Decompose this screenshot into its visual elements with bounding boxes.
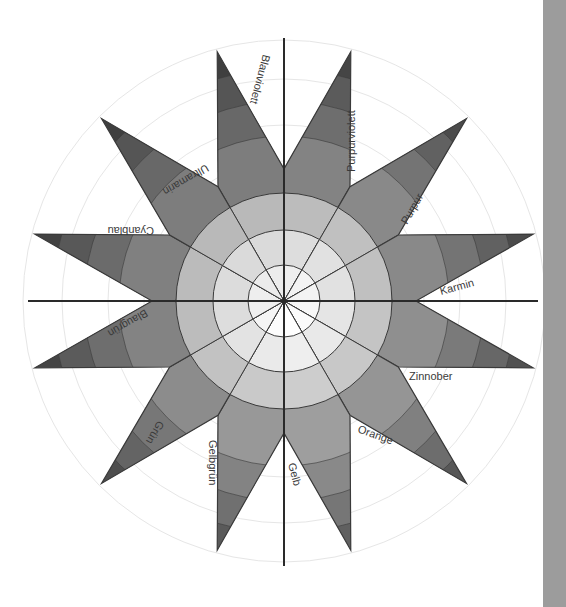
color-star-svg: BlauviolettPurpurviolettPurpurKarminZinn… bbox=[0, 0, 566, 607]
color-star-diagram: BlauviolettPurpurviolettPurpurKarminZinn… bbox=[0, 0, 566, 607]
label-purpurviolett: Purpurviolett bbox=[345, 110, 357, 172]
axes bbox=[28, 38, 538, 566]
label-zinnober: Zinnober bbox=[409, 370, 453, 382]
center-point bbox=[282, 299, 287, 304]
label-gelb: Gelb bbox=[286, 461, 304, 487]
label-gelbgrün: Gelbgrün bbox=[207, 440, 219, 485]
page-edge-bar bbox=[543, 0, 566, 607]
label-cyanblau: Cyanblau bbox=[108, 225, 154, 237]
